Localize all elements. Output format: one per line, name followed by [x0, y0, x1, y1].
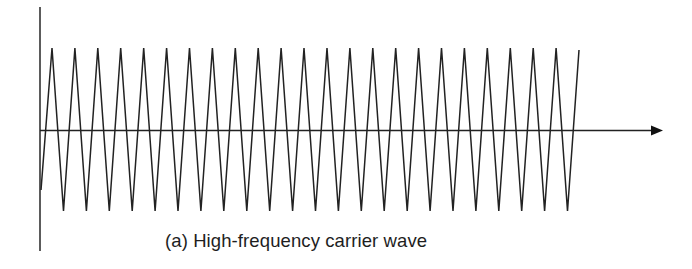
figure-caption: (a) High-frequency carrier wave: [165, 230, 427, 252]
arrowhead-icon: [651, 126, 663, 136]
triangle-carrier-waveform: [41, 48, 579, 211]
carrier-wave-plot: [0, 0, 692, 269]
carrier-wave-figure: (a) High-frequency carrier wave: [0, 0, 692, 269]
